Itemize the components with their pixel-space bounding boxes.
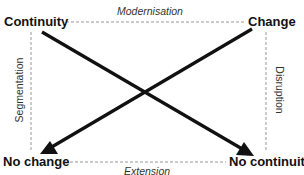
corner-label-no-change: No change (3, 155, 69, 169)
arrow-continuity-to-no-continuity (42, 32, 244, 150)
arrow-change-to-no-change (50, 29, 252, 148)
arrowhead-icon (40, 141, 58, 154)
corner-label-continuity: Continuity (4, 15, 68, 29)
edge-label-segmentation: Segmentation (13, 54, 25, 126)
edge-label-modernisation: Modernisation (117, 5, 183, 17)
corner-label-no-continuity: No continuity (229, 155, 304, 169)
transformation-diagram: Continuity Change No change No continuit… (0, 0, 304, 175)
edge-label-extension: Extension (124, 165, 170, 175)
edge-label-disruption: Disruption (274, 60, 286, 120)
corner-label-change: Change (248, 15, 296, 29)
